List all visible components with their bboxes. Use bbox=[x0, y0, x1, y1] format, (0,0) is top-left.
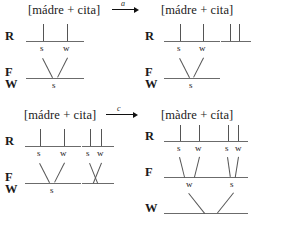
panel-3-g1-sw-s: s bbox=[37, 148, 41, 158]
panel-4-g1-sw-s: s bbox=[177, 143, 181, 153]
panel-4-g1-foot-label: w bbox=[186, 179, 193, 189]
panel-3-F-baseline-g1 bbox=[25, 183, 81, 184]
panel-4-tier-R: R bbox=[145, 129, 154, 144]
panel-4-g2-sw-s: s bbox=[225, 143, 229, 153]
panel-1-tier-W: W bbox=[5, 77, 18, 92]
panel-1-g1-branch-right bbox=[57, 58, 68, 78]
panel-4-g1-branch-left bbox=[179, 157, 185, 177]
panel-2-g2-stem-1 bbox=[230, 24, 231, 41]
arrow-a-label: a bbox=[121, 0, 125, 8]
arrow-a-shaft bbox=[112, 9, 135, 10]
panel-3-g2-sw-w: w bbox=[97, 148, 104, 158]
panel-2-g1-stem-2 bbox=[203, 24, 204, 41]
panel-3-g1-branch-right bbox=[54, 163, 65, 183]
panel-1-g1-foot-label: s bbox=[52, 80, 56, 90]
panel-3-g1-stem-2 bbox=[64, 129, 65, 146]
panel-3-R-baseline-g2 bbox=[82, 146, 114, 147]
panel-2-R-baseline-g1 bbox=[164, 41, 220, 42]
panel-4-g2-foot-label: s bbox=[230, 179, 234, 189]
panel-4-label: [màdre + cíta] bbox=[161, 108, 233, 123]
arrow-c-shaft bbox=[106, 114, 134, 115]
panel-3-g1-branch-left bbox=[39, 163, 50, 183]
panel-3-g1-foot-label: s bbox=[50, 185, 54, 195]
panel-1-F-baseline bbox=[26, 78, 84, 79]
panel-1-g1-branch-left bbox=[42, 58, 53, 78]
panel-2-label: [mádre + cita] bbox=[161, 3, 233, 18]
panel-3-g2-sw-s: s bbox=[86, 148, 90, 158]
panel-3-R-baseline-g1 bbox=[25, 146, 81, 147]
panel-3-g1-sw-w: w bbox=[60, 148, 67, 158]
panel-2-g1-stem-1 bbox=[180, 24, 181, 41]
panel-1-label: [mádre + cita] bbox=[28, 3, 100, 18]
panel-2-F-baseline bbox=[164, 78, 220, 79]
panel-2-g1-branch-left bbox=[179, 58, 190, 78]
arrow-c-head bbox=[133, 112, 138, 118]
panel-4-g2-stem-2 bbox=[238, 125, 239, 141]
panel-4-g2-branch-left bbox=[227, 157, 231, 177]
arrow-a-head bbox=[134, 7, 139, 13]
panel-1-g1-sw-w: w bbox=[63, 43, 70, 53]
panel-2-g1-branch-right bbox=[193, 58, 204, 78]
panel-4-R-baseline bbox=[164, 141, 248, 142]
panel-3-tier-R: R bbox=[5, 134, 14, 149]
panel-4-word-branch-right bbox=[217, 192, 234, 213]
panel-1-g1-stem-2 bbox=[67, 24, 68, 41]
arrow-a: a bbox=[112, 2, 140, 18]
panel-2-tier-W: W bbox=[145, 77, 158, 92]
panel-3-F-baseline-g2 bbox=[82, 183, 114, 184]
panel-4-word-branch-left bbox=[188, 193, 205, 214]
panel-4-g2-branch-right bbox=[235, 157, 239, 177]
panel-1-g1-stem-1 bbox=[43, 24, 44, 41]
panel-4-g1-branch-right bbox=[194, 157, 200, 177]
panel-4-g1-sw-w: w bbox=[195, 143, 202, 153]
panel-2-g1-foot-label: s bbox=[189, 80, 193, 90]
panel-3: [mádre + cita] R s w s w F W s c bbox=[0, 105, 140, 226]
panel-2-R-baseline-g2 bbox=[221, 41, 251, 42]
arrow-c-label: c bbox=[117, 104, 121, 113]
panel-1-g1-sw-s: s bbox=[40, 43, 44, 53]
panel-4-tier-F: F bbox=[145, 165, 153, 180]
panel-3-label: [mádre + cita] bbox=[24, 108, 96, 123]
panel-3-g2-branch-right bbox=[93, 163, 102, 183]
panel-3-g1-stem-1 bbox=[40, 129, 41, 146]
panel-2: [mádre + cita] R s w F W s b bbox=[140, 0, 281, 105]
panel-4-g2-sw-w: w bbox=[235, 143, 242, 153]
panel-4-W-baseline bbox=[164, 213, 248, 214]
panel-4: [màdre + cíta] R s w s w F w s W bbox=[140, 105, 281, 226]
panel-1: [mádre + cita] R s w F W s a bbox=[0, 0, 140, 105]
panel-4-tier-W: W bbox=[145, 201, 158, 216]
panel-1-R-baseline bbox=[26, 41, 84, 42]
panel-3-g2-stem-1 bbox=[90, 129, 91, 146]
panel-2-g1-sw-w: w bbox=[199, 43, 206, 53]
arrow-c: c bbox=[106, 107, 140, 123]
panel-2-g1-sw-s: s bbox=[177, 43, 181, 53]
panel-2-tier-R: R bbox=[145, 29, 154, 44]
panel-4-g1-stem-2 bbox=[199, 125, 200, 141]
panel-3-g2-stem-2 bbox=[101, 129, 102, 146]
panel-4-g2-stem-1 bbox=[228, 125, 229, 141]
panel-2-g2-stem-2 bbox=[239, 24, 240, 41]
panel-1-tier-R: R bbox=[5, 29, 14, 44]
panel-4-g1-stem-1 bbox=[180, 125, 181, 141]
panel-3-tier-W: W bbox=[5, 182, 18, 197]
